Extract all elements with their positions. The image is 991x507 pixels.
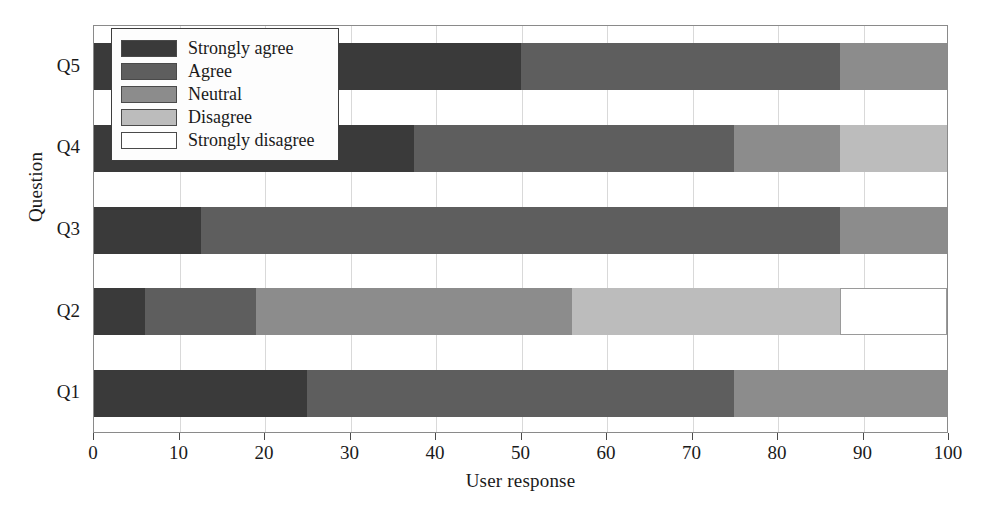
x-tick-label: 0 [88, 442, 98, 464]
bar-segment[interactable] [256, 288, 572, 335]
x-tick-mark [948, 433, 949, 440]
x-tick-label: 60 [597, 442, 616, 464]
bar-segment[interactable] [840, 43, 947, 90]
x-tick-mark [606, 433, 607, 440]
legend-item-label: Disagree [188, 108, 252, 126]
bar-segment[interactable] [840, 207, 947, 254]
y-axis-tick-labels: Q5Q4Q3Q2Q1 [0, 25, 88, 433]
x-tick-mark [777, 433, 778, 440]
legend-item[interactable]: Strongly agree [121, 37, 329, 59]
legend-swatch-icon [121, 86, 177, 103]
x-axis-title: User response [93, 470, 948, 492]
y-tick-q2: Q2 [57, 301, 80, 320]
x-tick-label: 100 [934, 442, 963, 464]
bar-segment[interactable] [572, 288, 841, 335]
x-tick-mark [350, 433, 351, 440]
x-tick-mark [264, 433, 265, 440]
bar-segment[interactable] [145, 288, 256, 335]
x-tick-mark [179, 433, 180, 440]
bar-row[interactable] [94, 207, 947, 254]
bar-row[interactable] [94, 370, 947, 417]
legend-item-label: Agree [188, 62, 232, 80]
legend-item[interactable]: Agree [121, 60, 329, 82]
chart-legend: Strongly agreeAgreeNeutralDisagreeStrong… [111, 28, 339, 161]
x-tick-mark [692, 433, 693, 440]
legend-swatch-icon [121, 63, 177, 80]
legend-item[interactable]: Disagree [121, 106, 329, 128]
x-tick-label: 70 [682, 442, 701, 464]
bar-row[interactable] [94, 288, 947, 335]
legend-swatch-icon [121, 132, 177, 149]
y-tick-q3: Q3 [57, 219, 80, 238]
legend-item-label: Neutral [188, 85, 242, 103]
legend-swatch-icon [121, 109, 177, 126]
x-tick-label: 30 [340, 442, 359, 464]
y-tick-q4: Q4 [57, 137, 80, 156]
x-tick-mark [863, 433, 864, 440]
x-tick-label: 20 [255, 442, 274, 464]
x-axis-tick-labels: 0102030405060708090100 [93, 433, 948, 467]
legend-item[interactable]: Neutral [121, 83, 329, 105]
legend-item-label: Strongly agree [188, 39, 293, 57]
x-tick-label: 50 [511, 442, 530, 464]
bar-segment[interactable] [734, 370, 947, 417]
bar-segment[interactable] [840, 288, 947, 335]
bar-segment[interactable] [94, 207, 201, 254]
bar-segment[interactable] [307, 370, 734, 417]
legend-item[interactable]: Strongly disagree [121, 129, 329, 151]
y-tick-q1: Q1 [57, 382, 80, 401]
x-tick-label: 90 [853, 442, 872, 464]
bar-segment[interactable] [201, 207, 841, 254]
bar-segment[interactable] [840, 125, 947, 172]
x-tick-mark [435, 433, 436, 440]
x-tick-mark [521, 433, 522, 440]
legend-swatch-icon [121, 40, 177, 57]
bar-segment[interactable] [734, 125, 841, 172]
x-tick-label: 10 [169, 442, 188, 464]
bar-segment[interactable] [521, 43, 841, 90]
stacked-bar-chart: Question Q5Q4Q3Q2Q1 01020304050607080901… [0, 0, 991, 507]
y-tick-q5: Q5 [57, 56, 80, 75]
x-tick-mark [93, 433, 94, 440]
legend-item-label: Strongly disagree [188, 131, 314, 149]
x-tick-label: 80 [768, 442, 787, 464]
bar-segment[interactable] [94, 288, 145, 335]
bar-segment[interactable] [414, 125, 734, 172]
bar-segment[interactable] [94, 370, 307, 417]
x-tick-label: 40 [426, 442, 445, 464]
